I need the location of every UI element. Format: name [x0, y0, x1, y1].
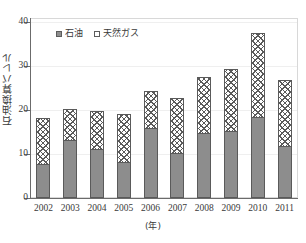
- bar-group-2002: [36, 117, 50, 198]
- stacked-bar-chart: 40 30 20 10 0 石油換算バレル 石油 天然ガス 2002200320…: [0, 0, 306, 243]
- bar-group-2007: [170, 97, 184, 198]
- bar-segment-oil-2003: [63, 140, 77, 199]
- bar-segment-natural-gas-2011: [278, 80, 292, 148]
- bar-segment-oil-2004: [90, 149, 104, 199]
- bar-group-2009: [224, 68, 238, 199]
- bar-segment-natural-gas-2003: [63, 109, 77, 141]
- bar-group-2006: [144, 90, 158, 198]
- y-axis-title: 石油換算バレル: [2, 52, 16, 126]
- bar-segment-oil-2007: [170, 153, 184, 198]
- y-tick-label-40: 40: [2, 17, 28, 27]
- y-tick-label-10: 10: [2, 149, 28, 159]
- bar-group-2011: [278, 79, 292, 198]
- bar-group-2008: [197, 77, 211, 199]
- bar-segment-oil-2009: [224, 131, 238, 199]
- x-tick-label-2011: 2011: [265, 203, 305, 213]
- bar-segment-oil-2008: [197, 133, 211, 198]
- bar-segment-natural-gas-2009: [224, 69, 238, 132]
- bar-group-2003: [63, 108, 77, 198]
- bar-group-2005: [117, 113, 131, 199]
- bar-segment-oil-2010: [251, 117, 265, 198]
- bar-segment-natural-gas-2002: [36, 118, 50, 165]
- bar-segment-natural-gas-2005: [117, 114, 131, 164]
- x-axis-title: (年): [0, 219, 306, 232]
- bar-segment-natural-gas-2010: [251, 33, 265, 119]
- x-axis-line: [30, 198, 298, 199]
- bar-segment-oil-2011: [278, 146, 292, 198]
- bar-segment-natural-gas-2008: [197, 77, 211, 133]
- y-tick-label-0: 0: [2, 193, 28, 203]
- bar-segment-oil-2005: [117, 162, 131, 198]
- bars-layer: [30, 18, 298, 198]
- bar-segment-oil-2002: [36, 164, 50, 198]
- bar-segment-oil-2006: [144, 128, 158, 198]
- bar-segment-natural-gas-2007: [170, 98, 184, 154]
- bar-group-2010: [251, 32, 265, 199]
- bar-segment-natural-gas-2006: [144, 91, 158, 129]
- bar-group-2004: [90, 110, 104, 198]
- bar-segment-natural-gas-2004: [90, 111, 104, 149]
